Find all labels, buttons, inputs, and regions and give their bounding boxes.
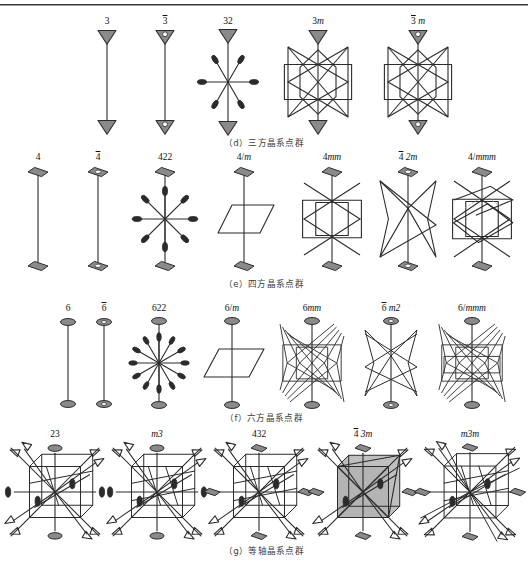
row-trigonal: 33323m3 m (0, 16, 528, 138)
point-group-diagram (186, 314, 278, 412)
point-group-diagram (312, 440, 414, 548)
row-hexagonal: 666226/m6mm6 m26/mmm (0, 303, 528, 411)
point-group-label: 6mm (266, 303, 358, 314)
point-group-label: 23 (4, 429, 106, 440)
point-group-label: m3 (106, 429, 208, 440)
caption-cubic: （g）等轴晶系点群 (0, 546, 528, 556)
top-rule (0, 4, 528, 6)
row-cubic: 23m34324 3mm3m (0, 429, 528, 547)
point-group-diagram (358, 27, 478, 137)
point-group-label: 4/m (196, 152, 292, 163)
point-group-label: 6/mmm (424, 303, 520, 314)
point-group-label: 6/m (186, 303, 278, 314)
point-group-diagram (416, 440, 524, 548)
point-group-label: m3m (416, 429, 524, 440)
point-group-diagram (4, 440, 106, 548)
point-group-label: 4 (8, 152, 68, 163)
point-group-diagram (196, 163, 292, 275)
point-group-label: 4 (68, 152, 128, 163)
point-group-diagram (8, 163, 68, 275)
point-group-label: 6 m2 (346, 303, 436, 314)
point-group-label: 4 3m (312, 429, 414, 440)
point-group-diagram (346, 314, 436, 412)
point-group-diagram (266, 314, 358, 412)
point-group-diagram (106, 440, 208, 548)
point-group-label: 4/mmm (436, 152, 528, 163)
caption-tetragonal: （e）四方晶系点群 (0, 279, 528, 289)
point-group-label: 432 (208, 429, 310, 440)
figure-page: 33323m3 m （d）三方晶系点群 444224/m4mm4 2m4/mmm… (0, 0, 528, 573)
point-group-diagram (436, 163, 528, 275)
point-group-diagram (424, 314, 520, 412)
caption-trigonal: （d）三方晶系点群 (0, 138, 528, 148)
point-group-label: 3 m (358, 16, 478, 27)
row-tetragonal: 444224/m4mm4 2m4/mmm (0, 152, 528, 274)
caption-hexagonal: （f）六方晶系点群 (0, 413, 528, 423)
point-group-diagram (208, 440, 310, 548)
point-group-diagram (68, 163, 128, 275)
